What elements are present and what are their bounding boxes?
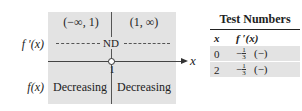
table-title: Test Numbers xyxy=(210,12,300,30)
header-x: x xyxy=(210,32,236,44)
cell-x: 0 xyxy=(210,48,236,60)
arrow-icon xyxy=(181,58,188,64)
critical-point-label: 1 xyxy=(108,64,116,75)
table-header: x f ′(x) xyxy=(210,30,300,45)
x-axis xyxy=(48,61,184,62)
nd-label: ND xyxy=(102,37,120,49)
cell-value: −13 (−) xyxy=(236,47,300,61)
dashes-right xyxy=(124,43,170,44)
dashes-left xyxy=(56,43,100,44)
cell-x: 2 xyxy=(210,64,236,76)
interval-left: (−∞, 1) xyxy=(52,15,110,30)
derivative-label: f ′(x) xyxy=(4,37,44,52)
table-row: 0 −13 (−) xyxy=(210,46,300,61)
axis-label: x xyxy=(190,53,196,69)
denominator: 3 xyxy=(242,70,246,76)
table-row: 2 −13 (−) xyxy=(210,62,300,77)
fraction: 13 xyxy=(242,63,246,76)
denominator: 3 xyxy=(242,54,246,60)
fraction: 13 xyxy=(242,47,246,60)
test-numbers-table: Test Numbers x f ′(x) 0 −13 (−) 2 −13 (−… xyxy=(210,12,300,77)
cell-value: −13 (−) xyxy=(236,63,300,77)
interval-right: (1, ∞) xyxy=(113,15,175,30)
behavior-left: Decreasing xyxy=(50,80,110,95)
function-label: f(x) xyxy=(4,80,44,95)
header-derivative: f ′(x) xyxy=(236,32,300,44)
sign-indicator: (−) xyxy=(254,63,268,75)
behavior-right: Decreasing xyxy=(113,80,175,95)
sign-indicator: (−) xyxy=(254,47,268,59)
